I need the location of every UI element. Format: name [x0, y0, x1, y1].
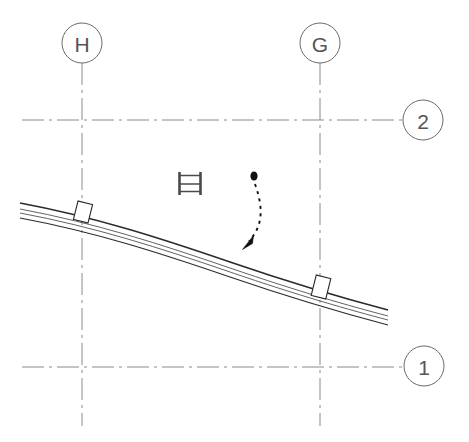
- wall-line-3: [20, 213, 388, 320]
- leader-start-dot: [250, 171, 257, 180]
- curved-leader-arrow[interactable]: [243, 171, 261, 249]
- grid-bubble-h-label: H: [74, 33, 89, 56]
- ladder-symbol[interactable]: [179, 172, 201, 195]
- architectural-drawing-canvas: H G 2 1: [0, 0, 469, 442]
- plan-drawing-svg: H G 2 1: [0, 0, 469, 442]
- curved-wall-assembly[interactable]: [20, 203, 388, 325]
- grid-bubble-1-label: 1: [418, 356, 430, 379]
- column-at-grid-g[interactable]: [311, 275, 331, 299]
- grid-bubbles-group: H G 2 1: [62, 23, 444, 386]
- grid-bubble-g[interactable]: G: [300, 23, 340, 63]
- wall-face-inner: [20, 218, 388, 325]
- leader-arrowhead-icon: [243, 236, 254, 250]
- column-at-grid-h[interactable]: [73, 201, 92, 223]
- grid-bubble-1[interactable]: 1: [404, 346, 444, 386]
- columns-group: [73, 201, 330, 299]
- grid-bubble-2-label: 2: [417, 110, 429, 133]
- grid-bubble-2[interactable]: 2: [403, 100, 443, 140]
- gridlines-group: [22, 63, 404, 426]
- grid-bubble-h[interactable]: H: [62, 23, 102, 63]
- grid-bubble-g-label: G: [312, 33, 328, 56]
- leader-dashed-curve: [249, 184, 261, 241]
